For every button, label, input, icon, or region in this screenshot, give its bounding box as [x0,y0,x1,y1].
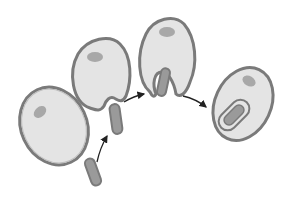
arrow-icon [97,136,107,162]
cell-stage-4 [202,58,285,151]
cell-stage-2 [73,39,130,110]
phagocytosis-diagram [0,0,286,202]
nucleus-icon [87,52,103,62]
nucleus-icon [159,27,175,37]
arrow-icon [183,96,206,107]
bacterium-stage-2 [109,103,123,134]
bacterium-stage-1 [84,157,103,187]
